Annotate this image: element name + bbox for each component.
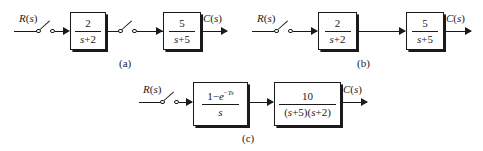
arrowhead-icon: [63, 27, 70, 35]
arrowhead-icon: [465, 27, 472, 35]
numerator: 5: [412, 17, 438, 31]
transfer-function-a-1: 2 s+2: [75, 17, 101, 45]
arrowhead-icon: [186, 98, 193, 106]
denominator: s+5: [169, 32, 195, 45]
denominator: s+5: [412, 32, 438, 45]
denominator: (s+5)(s+2): [279, 105, 336, 118]
sampler-blade: [278, 20, 288, 29]
numerator-exponent: −Ts: [224, 90, 234, 98]
sampler-contact-dot: [50, 29, 55, 34]
transfer-function-block-b-2: 5 s+5: [406, 12, 444, 50]
transfer-function-block-c-2: 10 (s+5)(s+2): [274, 82, 341, 126]
transfer-function-block-c-1: 1−e−Ts s: [193, 82, 248, 126]
input-label-b: R(s): [257, 13, 275, 24]
arrowhead-icon: [267, 98, 274, 106]
sampler-blade: [164, 91, 174, 100]
arrowhead-icon: [311, 27, 318, 35]
output-label-a: C(s): [203, 13, 222, 24]
denominator: s+2: [75, 32, 101, 45]
transfer-function-b-1: 2 s+2: [325, 17, 351, 45]
input-label-a: R(s): [19, 13, 37, 24]
arrowhead-icon: [361, 98, 368, 106]
wire-b-input: [252, 31, 276, 32]
numerator-base: 1−e: [207, 90, 224, 102]
caption-b: (b): [357, 58, 370, 69]
transfer-function-block-b-1: 2 s+2: [318, 12, 357, 50]
arrowhead-icon: [221, 27, 228, 35]
figure-canvas: R(s) 2 s+2: [0, 0, 483, 151]
input-label-c: R(s): [143, 84, 161, 95]
numerator: 1−e−Ts: [202, 90, 239, 104]
transfer-function-a-2: 5 s+5: [169, 17, 195, 45]
arrowhead-icon: [156, 27, 163, 35]
sampler-contact-dot: [174, 100, 179, 105]
caption-c: (c): [242, 133, 254, 144]
transfer-function-b-2: 5 s+5: [412, 17, 438, 45]
plant-transfer-function: 10 (s+5)(s+2): [279, 90, 336, 118]
numerator: 10: [279, 90, 336, 104]
denominator: s+2: [325, 32, 351, 45]
transfer-function-block-a-2: 5 s+5: [163, 12, 201, 50]
sampler-contact-dot: [288, 29, 293, 34]
wire-b-block1-to-block2: [357, 31, 405, 32]
arrowhead-icon: [399, 27, 406, 35]
sampler-blade: [40, 20, 50, 29]
wire-c-input: [139, 102, 162, 103]
output-label-c: C(s): [343, 84, 362, 95]
sampler-contact-dot: [132, 29, 137, 34]
output-label-b: C(s): [446, 13, 465, 24]
caption-a: (a): [119, 58, 131, 69]
transfer-function-block-a-1: 2 s+2: [70, 12, 106, 50]
zero-order-hold-transfer-function: 1−e−Ts s: [202, 90, 239, 118]
wire-a-input: [14, 31, 38, 32]
denominator: s: [202, 105, 239, 118]
numerator: 2: [75, 17, 101, 31]
sampler-blade: [122, 20, 132, 29]
numerator: 2: [325, 17, 351, 31]
numerator: 5: [169, 17, 195, 31]
